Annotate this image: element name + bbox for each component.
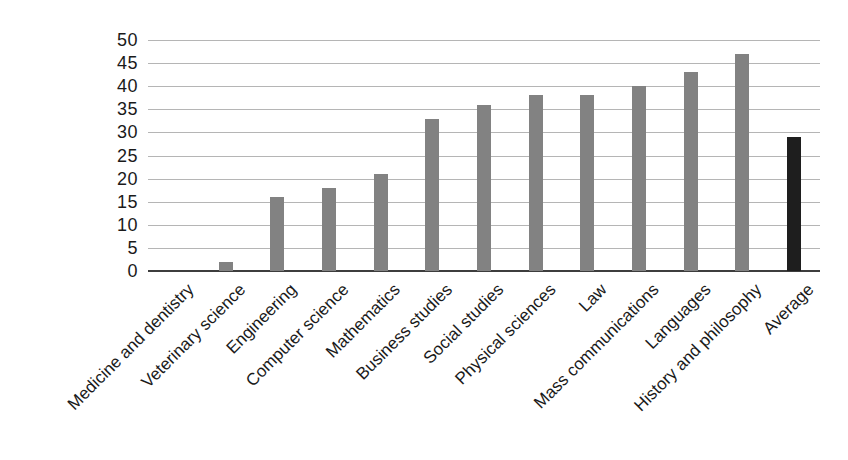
bar-business-studies	[425, 119, 439, 271]
gridline-40	[148, 86, 820, 87]
bar-computer-science	[322, 188, 336, 271]
gridline-50	[148, 40, 820, 41]
y-tick-label-25: 25	[0, 145, 138, 167]
bar-chart-figure: 05101520253035404550 Medicine and dentis…	[0, 0, 848, 460]
bar-average	[787, 137, 801, 271]
plot-area	[148, 40, 820, 271]
bar-law	[580, 95, 594, 271]
x-tick-label-average: Average	[760, 280, 818, 338]
y-tick-label-35: 35	[0, 98, 138, 120]
bar-physical-sciences	[529, 95, 543, 271]
y-tick-label-30: 30	[0, 121, 138, 143]
y-tick-label-40: 40	[0, 75, 138, 97]
bar-mathematics	[374, 174, 388, 271]
y-tick-label-5: 5	[0, 237, 138, 259]
bar-history-and-philosophy	[735, 54, 749, 271]
y-tick-label-10: 10	[0, 214, 138, 236]
bar-veterinary-science	[219, 262, 233, 271]
x-tick-label-physical-sciences: Physical sciences	[451, 280, 559, 388]
y-tick-label-45: 45	[0, 52, 138, 74]
x-tick-label-law: Law	[575, 280, 610, 315]
y-tick-label-15: 15	[0, 191, 138, 213]
bar-languages	[684, 72, 698, 271]
y-tick-label-50: 50	[0, 29, 138, 51]
y-tick-label-0: 0	[0, 260, 138, 282]
y-tick-label-20: 20	[0, 168, 138, 190]
bar-mass-communications	[632, 86, 646, 271]
gridline-45	[148, 63, 820, 64]
bar-engineering	[270, 197, 284, 271]
bar-social-studies	[477, 105, 491, 271]
